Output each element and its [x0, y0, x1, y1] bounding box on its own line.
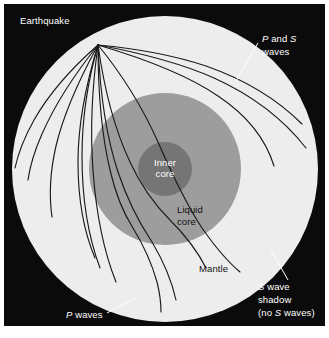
mantle-label: Mantle — [199, 263, 228, 274]
p-and-s-waves-label-line1: P and S — [262, 33, 297, 44]
diagram-canvas: Inner core Liquid core Mantle Earthquake… — [0, 0, 329, 338]
inner-core-label-line1: Inner — [154, 157, 176, 168]
p-waves-label-text: waves — [72, 309, 102, 320]
p-and-s-waves-label-s: S — [290, 33, 297, 44]
s-wave-shadow-label-line2: shadow — [258, 294, 291, 305]
liquid-core-label-line1: Liquid — [177, 204, 203, 215]
liquid-core-label-line2: core — [177, 216, 196, 227]
inner-core-label-line2: core — [156, 168, 175, 179]
p-waves-label: P waves — [66, 309, 103, 320]
s-wave-shadow-label-line1: S wave — [258, 281, 290, 292]
s-wave-shadow-label-no: (no — [258, 307, 275, 318]
diagram-panel: Inner core Liquid core Mantle Earthquake… — [4, 4, 325, 326]
s-wave-shadow-label-line3: (no S waves) — [258, 307, 315, 318]
p-and-s-waves-label-line2: waves — [261, 46, 290, 57]
s-wave-shadow-label-waves: waves) — [281, 307, 314, 318]
seismic-wave-diagram: Inner core Liquid core Mantle Earthquake… — [0, 0, 329, 338]
s-wave-shadow-label-wave: wave — [264, 281, 289, 292]
earthquake-label: Earthquake — [20, 15, 70, 26]
p-and-s-waves-label-and: and — [268, 33, 290, 44]
